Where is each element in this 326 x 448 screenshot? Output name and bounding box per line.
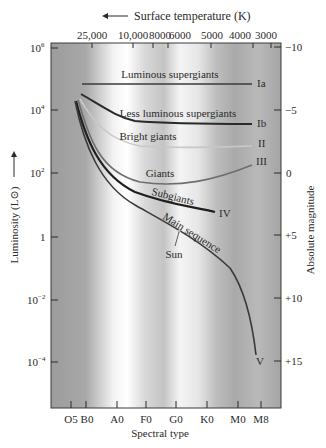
svg-text:Luminosity (L⊙): Luminosity (L⊙)	[8, 186, 21, 263]
y-tick-1e6: 106	[30, 41, 45, 54]
class-ib: Ib	[257, 117, 267, 129]
top-axis-label: Surface temperature (K)	[134, 9, 251, 23]
svg-text:Absolute magnitude: Absolute magnitude	[304, 185, 316, 274]
label-bright-giants: Bright giants	[119, 130, 176, 142]
top-tick-label: 25,000	[77, 29, 108, 41]
y-tick-1em2: 10−2	[27, 293, 46, 306]
class-ia: Ia	[257, 77, 266, 89]
class-ii: II	[258, 137, 266, 149]
label-sun: Sun	[165, 248, 183, 260]
y2-tick-label: −10	[285, 41, 303, 53]
label-giants: Giants	[146, 167, 175, 179]
left-axis-title: Luminosity (L⊙)	[8, 151, 21, 263]
top-tick-label: 5000	[201, 29, 224, 41]
x-tick-label: A0	[110, 413, 124, 425]
y2-tick-label: +10	[285, 292, 303, 304]
y-tick-1e4: 104	[30, 103, 45, 116]
y2-tick-label: +15	[285, 355, 303, 367]
top-axis-title: Surface temperature (K)	[102, 9, 251, 23]
x-tick-label: O5	[64, 413, 78, 425]
right-axis-title: Absolute magnitude	[304, 185, 316, 274]
top-tick-label: 3000	[255, 29, 278, 41]
top-tick-label: 10,000	[118, 29, 149, 41]
y2-tick-label: 0	[286, 167, 292, 179]
x-tick-label: G0	[169, 413, 183, 425]
y-tick-1e2: 102	[30, 166, 45, 179]
class-v: V	[256, 355, 264, 367]
x-tick-label: F0	[140, 413, 152, 425]
top-tick-label: 4000	[229, 29, 252, 41]
x-tick-label: K0	[200, 413, 214, 425]
bottom-axis-title: Spectral type	[131, 427, 189, 439]
label-less-luminous-supergiants: Less luminous supergiants	[120, 107, 237, 119]
y-tick-1em4: 10−4	[27, 355, 46, 368]
x-tick-label: B0	[81, 413, 94, 425]
class-iv: IV	[219, 207, 231, 219]
x-tick-label: M8	[253, 413, 269, 425]
label-luminous-supergiants: Luminous supergiants	[121, 68, 218, 80]
top-tick-label: 6000	[169, 29, 192, 41]
hr-diagram: Surface temperature (K) 25,000 10,000 80…	[0, 0, 326, 448]
y-tick-1: 1	[40, 231, 46, 243]
x-tick-label: M0	[230, 413, 246, 425]
arrow-left-icon	[102, 13, 108, 19]
class-iii: III	[256, 155, 267, 167]
y2-tick-label: +5	[285, 229, 297, 241]
y2-tick-label: −5	[285, 104, 297, 116]
arrow-up-icon	[11, 151, 17, 157]
